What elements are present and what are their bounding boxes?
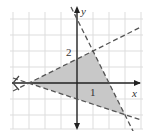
x-tick-label: 1 [90,86,96,98]
inequality-graph: y x 2 1 [0,0,145,131]
x-axis-arrow-icon [134,80,141,86]
y-tick-label: 2 [66,46,72,58]
y-axis-arrow-icon [74,6,80,13]
y-axis-label: y [80,5,86,17]
x-axis-label: x [131,87,137,99]
